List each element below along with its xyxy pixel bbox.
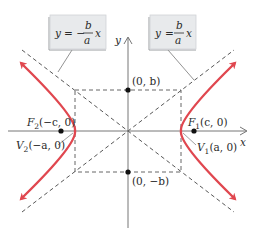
eq-left-num: b xyxy=(85,19,92,31)
equation-box-left: y = − b a x xyxy=(49,15,106,50)
eq-left-sign: = − xyxy=(64,27,85,39)
focus-left-point xyxy=(58,128,63,133)
label-top-point: (0, b) xyxy=(132,75,160,87)
eq-left-lhs: y xyxy=(54,27,62,39)
left-branch-top-arrow-icon xyxy=(21,63,24,66)
eq-right-num: b xyxy=(176,19,183,31)
equation-box-right: y = b a x xyxy=(149,15,196,50)
y-axis-label: y xyxy=(114,34,122,46)
right-branch-bottom-arrow-icon xyxy=(232,196,235,199)
eq-right-den: a xyxy=(175,34,181,46)
left-branch-bottom-arrow-icon xyxy=(21,196,24,199)
leader-right xyxy=(168,50,194,80)
eq-right-lhs: y xyxy=(154,27,162,39)
eq-right-sign: = xyxy=(165,27,174,39)
eq-right-var: x xyxy=(186,27,192,39)
label-vertex-right: V1(a, 0) xyxy=(197,141,237,156)
x-axis-label: x xyxy=(240,136,246,148)
eq-left-den: a xyxy=(84,34,90,46)
point-top xyxy=(125,87,130,92)
hyperbola-diagram: y = − b a x y = b a x y x (0, b) (0, −b)… xyxy=(0,0,260,232)
leader-left xyxy=(58,50,72,72)
point-bottom xyxy=(125,169,130,174)
right-branch-top-arrow-icon xyxy=(232,63,235,66)
label-vertex-left: V2(−a, 0) xyxy=(16,139,65,154)
label-bottom-point: (0, −b) xyxy=(132,175,169,187)
label-focus-left: F2(−c, 0) xyxy=(26,116,75,131)
eq-left-var: x xyxy=(95,27,101,39)
